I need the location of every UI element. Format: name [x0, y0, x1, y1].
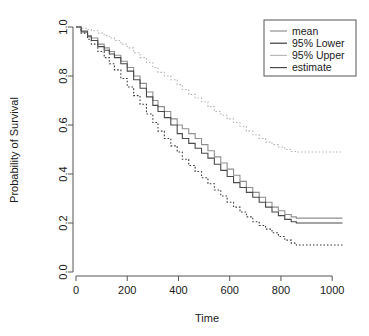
x-axis-ticks: 02004006008001000	[73, 276, 344, 296]
legend-label-1: 95% Lower	[292, 37, 345, 49]
y-tick-label: 0.6	[57, 117, 69, 132]
y-tick-label: 0.2	[57, 215, 69, 230]
y-tick-label: 0.8	[57, 68, 69, 83]
survival-plot: 0.00.20.40.60.81.0 02004006008001000 mea…	[0, 0, 369, 336]
x-tick-label: 0	[73, 284, 79, 296]
x-tick-label: 200	[118, 284, 136, 296]
y-tick-label: 1.0	[57, 19, 69, 34]
chart-legend: mean95% Lower95% Upperestimate	[264, 20, 356, 76]
legend-label-3: estimate	[292, 61, 332, 73]
y-axis-title: Probability of Survival	[8, 97, 20, 203]
x-tick-label: 1000	[320, 284, 344, 296]
x-axis-title: Time	[195, 312, 219, 324]
legend-label-2: 95% Upper	[292, 49, 345, 61]
legend-label-0: mean	[292, 25, 318, 37]
x-tick-label: 400	[169, 284, 187, 296]
x-tick-label: 600	[221, 284, 239, 296]
y-axis-ticks: 0.00.20.40.60.81.0	[57, 19, 73, 279]
y-tick-label: 0.0	[57, 264, 69, 279]
y-tick-label: 0.4	[57, 166, 69, 181]
x-tick-label: 800	[272, 284, 290, 296]
plot-canvas: 0.00.20.40.60.81.0 02004006008001000 mea…	[0, 0, 369, 336]
